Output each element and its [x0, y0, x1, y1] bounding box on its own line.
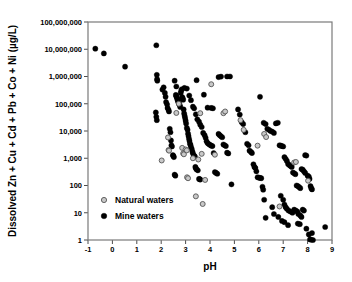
- mine-water-point: [261, 187, 266, 192]
- legend-label-natural-waters: Natural waters: [115, 195, 174, 205]
- mine-water-point: [187, 93, 192, 98]
- mine-water-point: [210, 106, 215, 111]
- mine-water-point: [154, 43, 159, 48]
- mine-water-point: [101, 51, 106, 56]
- y-tick-label: 10: [74, 209, 82, 218]
- natural-water-point: [166, 135, 171, 140]
- mine-water-point: [293, 172, 298, 177]
- x-tick-label: 3: [184, 245, 188, 254]
- mine-water-point: [275, 120, 280, 125]
- x-tick-label: 4: [208, 245, 213, 254]
- mine-water-point: [198, 177, 203, 182]
- natural-water-point: [193, 194, 198, 199]
- x-axis-tick-marks: [88, 240, 332, 244]
- natural-water-point: [176, 101, 181, 106]
- mine-water-point: [215, 171, 220, 176]
- y-tick-label: 10,000,000: [44, 45, 82, 54]
- mine-water-point: [210, 143, 215, 148]
- x-tick-label: 9: [330, 245, 334, 254]
- mine-water-point: [246, 143, 251, 148]
- mine-water-point: [285, 223, 290, 228]
- mine-water-point: [301, 208, 306, 213]
- natural-water-point: [200, 201, 205, 206]
- mine-water-point: [168, 130, 173, 135]
- mine-water-point: [263, 215, 268, 220]
- x-tick-label: 2: [159, 245, 163, 254]
- mine-water-point: [297, 222, 302, 227]
- legend-marker-mine-waters: [101, 213, 107, 219]
- x-tick-label: 1: [135, 245, 139, 254]
- mine-water-point: [281, 144, 286, 149]
- natural-water-point: [199, 151, 204, 156]
- legend-label-mine-waters: Mine waters: [115, 211, 164, 221]
- mine-water-point: [310, 237, 315, 242]
- mine-water-point: [171, 155, 176, 160]
- natural-water-point: [212, 152, 217, 157]
- natural-water-point: [209, 82, 214, 87]
- mine-water-point: [235, 107, 240, 112]
- mine-water-point: [304, 226, 309, 231]
- mine-water-point: [218, 74, 223, 79]
- mine-water-point: [181, 97, 186, 102]
- mine-water-point: [309, 230, 314, 235]
- mine-water-point: [223, 143, 228, 148]
- x-tick-label: 5: [232, 245, 236, 254]
- mine-water-point: [263, 121, 268, 126]
- y-axis-tick-labels: 1101001,00010,000100,0001,000,00010,000,…: [40, 18, 82, 245]
- natural-water-point: [186, 176, 191, 181]
- chart-figure: 1101001,00010,000100,0001,000,00010,000,…: [0, 0, 352, 282]
- mine-water-point: [188, 98, 193, 103]
- legend-marker-natural-waters: [101, 197, 106, 202]
- x-tick-label: 7: [281, 245, 285, 254]
- natural-water-point: [184, 148, 189, 153]
- natural-water-point: [198, 111, 203, 116]
- mine-water-point: [194, 78, 199, 83]
- natural-water-point: [264, 135, 269, 140]
- mine-water-point: [259, 176, 264, 181]
- mine-water-point: [163, 94, 168, 99]
- mine-water-point: [257, 94, 262, 99]
- y-tick-label: 1,000,000: [49, 72, 82, 81]
- natural-water-point: [167, 148, 172, 153]
- natural-water-point: [306, 178, 311, 183]
- mine-water-point: [270, 205, 275, 210]
- mine-water-point: [226, 151, 231, 156]
- mine-water-point: [173, 173, 178, 178]
- mine-water-point: [299, 214, 304, 219]
- natural-water-point: [159, 158, 164, 163]
- natural-water-point: [255, 143, 260, 148]
- mine-water-point: [323, 224, 328, 229]
- x-tick-label: 0: [110, 245, 114, 254]
- x-tick-label: 8: [306, 245, 310, 254]
- y-tick-label: 100,000: [55, 100, 82, 109]
- mine-water-point: [93, 46, 98, 51]
- scatter-plot-svg: 1101001,00010,000100,0001,000,00010,000,…: [0, 0, 352, 282]
- mine-water-point: [262, 197, 267, 202]
- mine-water-point: [276, 214, 281, 219]
- mine-water-point: [166, 109, 171, 114]
- natural-water-point: [203, 177, 208, 182]
- mine-water-point: [201, 92, 206, 97]
- mine-water-point: [304, 153, 309, 158]
- natural-water-point: [174, 110, 179, 115]
- x-axis-tick-labels: -10123456789: [85, 245, 334, 254]
- y-tick-label: 1: [78, 236, 82, 245]
- natural-water-point: [293, 159, 298, 164]
- mine-water-point: [172, 78, 177, 83]
- y-tick-label: 100: [69, 181, 82, 190]
- mine-water-point: [155, 78, 160, 83]
- mine-water-point: [195, 168, 200, 173]
- y-tick-label: 10,000: [59, 127, 82, 136]
- x-tick-label: 6: [257, 245, 261, 254]
- chart-legend: Natural watersMine waters: [101, 195, 174, 221]
- mine-water-point: [309, 187, 314, 192]
- mine-water-point: [227, 74, 232, 79]
- mine-water-point: [281, 197, 286, 202]
- natural-water-point: [223, 109, 228, 114]
- mine-water-point: [184, 86, 189, 91]
- natural-water-point: [196, 157, 201, 162]
- mine-water-point: [154, 118, 159, 123]
- mine-water-point: [237, 112, 242, 117]
- y-axis-title: Dissolved Zn + Cu + Cd + Pb + Co + Ni (µ…: [7, 25, 18, 237]
- x-tick-label: -1: [85, 245, 92, 254]
